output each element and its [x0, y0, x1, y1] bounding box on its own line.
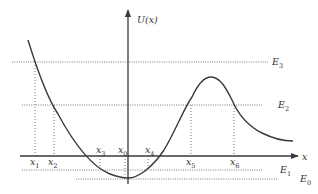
- x-axis-label: x: [302, 151, 308, 162]
- point-label-x1: x1: [30, 156, 40, 170]
- point-label-x2: x2: [48, 156, 58, 170]
- potential-curve: [28, 40, 293, 178]
- energy-label-e1: E1: [279, 164, 291, 178]
- potential-energy-diagram: U(x) x E3 E2 E1 E0 x1 x2 x3 x0 x4 x5 x6: [0, 0, 318, 194]
- y-axis-label: U(x): [137, 14, 158, 25]
- point-label-x5: x5: [186, 156, 196, 170]
- energy-label-e3: E3: [271, 56, 283, 70]
- energy-label-e0: E0: [299, 173, 311, 187]
- point-label-x6: x6: [230, 156, 240, 170]
- energy-label-e2: E2: [277, 99, 289, 113]
